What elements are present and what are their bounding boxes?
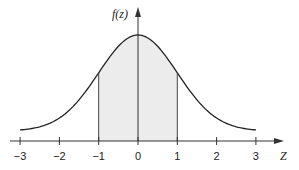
x-tick-label: 3 (253, 150, 259, 162)
x-tick-label: −2 (53, 150, 66, 162)
x-tick-label: 1 (174, 150, 180, 162)
x-tick-label: −3 (14, 150, 27, 162)
x-tick-label: 2 (214, 150, 220, 162)
x-axis-arrow-icon (274, 138, 284, 144)
normal-distribution-chart: −3−2−10123 f(z) Z (0, 0, 299, 170)
x-tick-label: 0 (135, 150, 141, 162)
y-axis-label: f(z) (112, 7, 128, 21)
x-axis-label: Z (280, 149, 287, 163)
x-tick-label: −1 (92, 150, 105, 162)
y-axis-arrow-icon (135, 7, 141, 17)
